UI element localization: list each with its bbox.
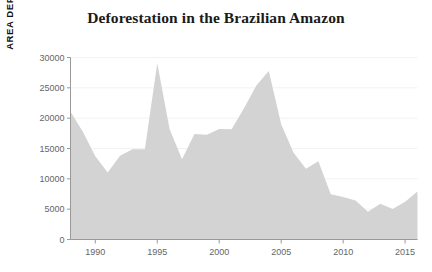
x-tick-label: 1995: [147, 247, 167, 257]
y-tick-label: 0: [59, 235, 64, 245]
y-tick-label: 30000: [39, 53, 64, 63]
y-tick-label: 10000: [39, 174, 64, 184]
y-tick-label: 25000: [39, 83, 64, 93]
x-tick-label: 2010: [333, 247, 353, 257]
y-axis-ticks: 050001000015000200002500030000: [39, 53, 70, 245]
x-tick-label: 2000: [209, 247, 229, 257]
chart-container: Deforestation in the Brazilian Amazon AR…: [0, 0, 432, 272]
x-axis-ticks: 199019952000200520102015: [85, 240, 415, 257]
y-tick-label: 5000: [44, 204, 64, 214]
x-tick-label: 1990: [85, 247, 105, 257]
area-series-deforestation: [71, 63, 418, 239]
y-tick-label: 20000: [39, 113, 64, 123]
x-tick-label: 2015: [395, 247, 415, 257]
plot-area: 050001000015000200002500030000 199019952…: [0, 0, 432, 272]
x-tick-label: 2005: [271, 247, 291, 257]
y-tick-label: 15000: [39, 144, 64, 154]
